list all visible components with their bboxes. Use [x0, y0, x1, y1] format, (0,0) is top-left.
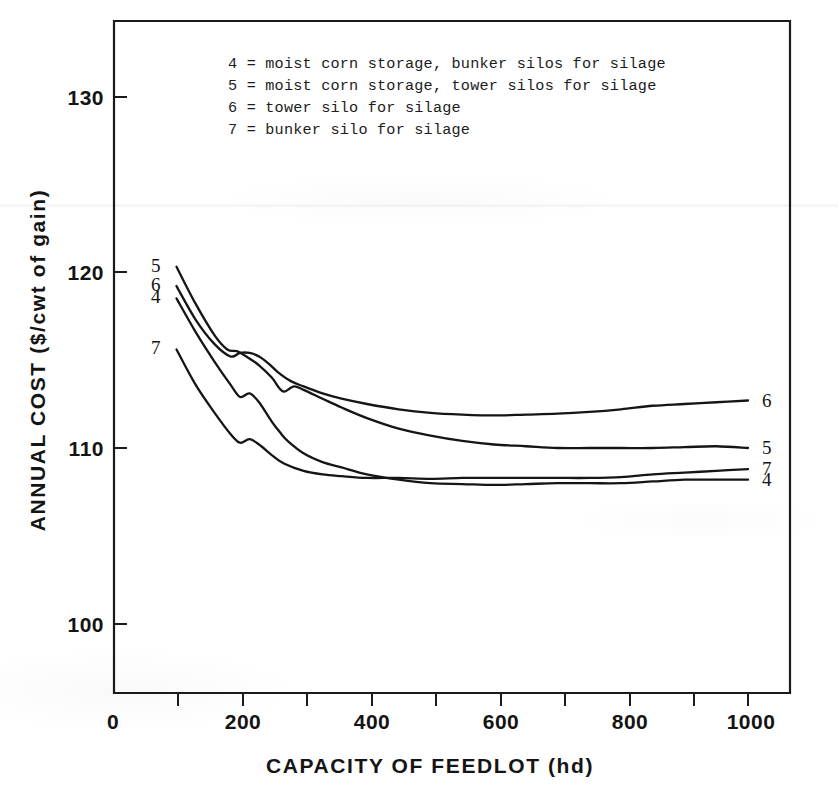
x-tick-label-400: 400 — [354, 710, 391, 733]
curve-start-label-7: 7 — [151, 337, 161, 358]
y-tick-label-110: 110 — [69, 437, 104, 460]
chart-figure: 130 120 110 100 0 200 400 600 800 1000 C… — [0, 0, 838, 799]
y-axis-ticks — [114, 97, 127, 624]
legend-item-6: 6 = tower silo for silage — [228, 99, 461, 117]
y-axis-tick-labels: 130 120 110 100 — [67, 86, 104, 636]
legend-item-7: 7 = bunker silo for silage — [228, 121, 470, 139]
legend-item-4: 4 = moist corn storage, bunker silos for… — [228, 55, 666, 73]
curve-start-label-5: 5 — [151, 255, 161, 276]
curve-start-label-6: 6 — [151, 274, 161, 295]
curve-end-label-7: 7 — [762, 458, 772, 479]
y-tick-label-130: 130 — [67, 86, 104, 109]
data-curves — [177, 267, 749, 485]
x-tick-label-1000: 1000 — [727, 710, 776, 733]
legend-item-5: 5 = moist corn storage, tower silos for … — [228, 77, 656, 95]
x-axis-tick-labels: 0 200 400 600 800 1000 — [107, 710, 775, 733]
x-tick-label-0: 0 — [107, 710, 119, 733]
legend: 4 = moist corn storage, bunker silos for… — [228, 55, 666, 139]
curve-6 — [177, 286, 749, 415]
y-tick-label-120: 120 — [67, 261, 104, 284]
curve-end-labels: 44556677 — [151, 255, 772, 490]
x-tick-label-200: 200 — [225, 710, 262, 733]
curve-end-label-6: 6 — [762, 390, 772, 411]
y-axis-title: ANNUAL COST ($/cwt of gain) — [26, 189, 49, 532]
x-axis-title: CAPACITY OF FEEDLOT (hd) — [266, 754, 594, 777]
curve-4 — [177, 298, 749, 485]
x-tick-label-800: 800 — [612, 710, 649, 733]
y-tick-label-100: 100 — [67, 613, 104, 636]
x-tick-label-600: 600 — [483, 710, 520, 733]
x-axis-ticks — [178, 693, 748, 706]
curve-end-label-5: 5 — [762, 437, 772, 458]
